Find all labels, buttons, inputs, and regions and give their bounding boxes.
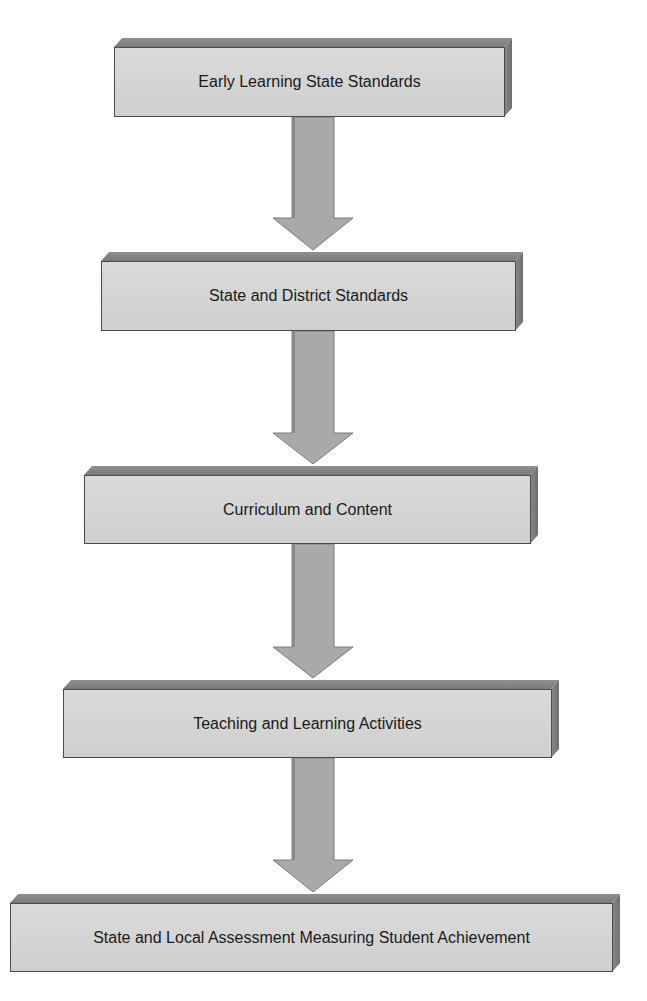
box-side-bevel bbox=[551, 680, 559, 758]
box-label: State and Local Assessment Measuring Stu… bbox=[93, 929, 530, 947]
box-side-bevel bbox=[504, 38, 512, 117]
box-face: Early Learning State Standards bbox=[114, 47, 505, 117]
down-arrow-icon bbox=[270, 331, 356, 465]
down-arrow-icon bbox=[270, 544, 356, 679]
box-side-bevel bbox=[612, 894, 620, 972]
flow-box-state-and-district-standards: State and District Standards bbox=[101, 252, 523, 331]
flow-box-early-learning-state-standards: Early Learning State Standards bbox=[114, 38, 512, 117]
box-top-bevel bbox=[101, 252, 523, 261]
flow-arrow-2 bbox=[270, 331, 356, 465]
down-arrow-icon bbox=[270, 758, 356, 893]
box-top-bevel bbox=[10, 894, 620, 903]
box-face: Curriculum and Content bbox=[84, 475, 531, 544]
box-label: State and District Standards bbox=[209, 287, 408, 305]
box-side-bevel bbox=[530, 466, 538, 544]
flow-arrow-3 bbox=[270, 544, 356, 679]
flow-arrow-4 bbox=[270, 758, 356, 893]
box-top-bevel bbox=[84, 466, 538, 475]
box-side-bevel bbox=[515, 252, 523, 331]
flow-box-curriculum-and-content: Curriculum and Content bbox=[84, 466, 538, 544]
flow-box-teaching-and-learning-activities: Teaching and Learning Activities bbox=[63, 680, 559, 758]
box-label: Curriculum and Content bbox=[223, 501, 392, 519]
box-top-bevel bbox=[114, 38, 512, 47]
flow-arrow-1 bbox=[270, 117, 356, 251]
box-label: Teaching and Learning Activities bbox=[193, 715, 422, 733]
box-face: State and District Standards bbox=[101, 261, 516, 331]
box-label: Early Learning State Standards bbox=[198, 73, 420, 91]
box-face: State and Local Assessment Measuring Stu… bbox=[10, 903, 613, 972]
box-face: Teaching and Learning Activities bbox=[63, 689, 552, 758]
down-arrow-icon bbox=[270, 117, 356, 251]
box-top-bevel bbox=[63, 680, 559, 689]
flow-box-state-and-local-assessment: State and Local Assessment Measuring Stu… bbox=[10, 894, 620, 972]
